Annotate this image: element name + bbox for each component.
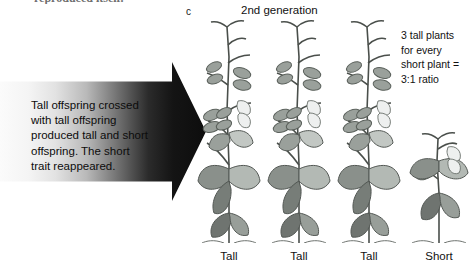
plant-label: Tall xyxy=(194,250,264,262)
panel-letter: c xyxy=(186,6,191,17)
plant-label: Short xyxy=(404,250,473,262)
caption-text: Tall offspring crossed with tall offspri… xyxy=(31,98,176,174)
plant-item: Tall xyxy=(334,0,404,265)
cut-off-header-label: reproduced itself. xyxy=(34,0,144,3)
pea-plant-short-illustration xyxy=(404,131,473,243)
plant-item: Short xyxy=(404,0,473,265)
plant-label: Tall xyxy=(334,250,404,262)
pea-plant-tall-illustration xyxy=(264,15,334,243)
cut-off-header-text: reproduced itself. xyxy=(34,0,144,4)
pea-plant-tall-illustration xyxy=(194,15,264,243)
plant-item: Tall xyxy=(264,0,334,265)
plant-label: Tall xyxy=(264,250,334,262)
pea-plant-tall-illustration xyxy=(334,15,404,243)
plant-item: Tall xyxy=(194,0,264,265)
plant-row: Tall xyxy=(194,0,473,265)
